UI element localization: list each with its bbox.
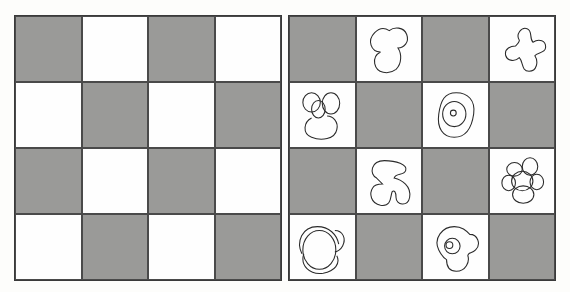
cell-gray: [215, 214, 282, 280]
left-checkerboard: [14, 15, 282, 281]
three-lobe-trefoil-icon: [357, 149, 422, 213]
cell-gray: [422, 148, 489, 214]
cell-white: [489, 16, 556, 82]
concentric-rings-icon: [423, 83, 488, 147]
six-petal-flower-icon: [490, 149, 555, 213]
cell-white: [489, 148, 556, 214]
cell-gray: [148, 148, 215, 214]
cell-white: [148, 82, 215, 148]
cell-white: [289, 82, 356, 148]
clover-with-center-oval-icon: [290, 83, 355, 147]
cell-white: [15, 214, 82, 280]
blob-with-eye-icon: [423, 215, 488, 279]
three-lobe-blob-icon: [357, 17, 422, 81]
cell-white: [148, 214, 215, 280]
cell-gray: [356, 82, 423, 148]
cell-white: [15, 82, 82, 148]
cell-white: [356, 148, 423, 214]
cell-white: [82, 148, 149, 214]
cell-gray: [289, 148, 356, 214]
cell-gray: [356, 214, 423, 280]
cell-white: [422, 82, 489, 148]
cell-white: [215, 148, 282, 214]
cell-gray: [82, 214, 149, 280]
cell-gray: [422, 16, 489, 82]
cell-white: [422, 214, 489, 280]
cell-gray: [489, 82, 556, 148]
four-petal-propeller-icon: [490, 17, 555, 81]
cell-gray: [15, 148, 82, 214]
cell-gray: [289, 16, 356, 82]
cell-white: [215, 16, 282, 82]
cell-gray: [15, 16, 82, 82]
right-checkerboard-with-shapes: [288, 15, 556, 281]
cell-white: [82, 16, 149, 82]
overlapping-circles-blob-icon: [290, 215, 355, 279]
cell-gray: [82, 82, 149, 148]
cell-gray: [215, 82, 282, 148]
cell-gray: [489, 214, 556, 280]
cell-white: [289, 214, 356, 280]
cell-white: [356, 16, 423, 82]
cell-gray: [148, 16, 215, 82]
